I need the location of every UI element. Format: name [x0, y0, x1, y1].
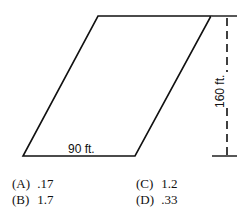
choice-d: (D) .33 — [136, 192, 178, 208]
parallelogram-figure: 90 ft. 160 ft. — [0, 0, 246, 170]
choice-letter: (C) — [136, 176, 158, 192]
parallelogram-shape — [23, 16, 211, 156]
choice-value: .17 — [37, 176, 53, 191]
choice-b: (B) 1.7 — [12, 192, 54, 208]
choice-value: 1.2 — [161, 176, 177, 191]
base-label: 90 ft. — [68, 142, 95, 156]
choice-a: (A) .17 — [12, 176, 54, 192]
choice-letter: (D) — [136, 192, 158, 208]
height-label: 160 ft. — [213, 75, 227, 108]
choice-letter: (A) — [12, 176, 34, 192]
choice-letter: (B) — [12, 192, 34, 208]
choice-c: (C) 1.2 — [136, 176, 178, 192]
choice-value: .33 — [161, 192, 177, 207]
choice-value: 1.7 — [37, 192, 53, 207]
